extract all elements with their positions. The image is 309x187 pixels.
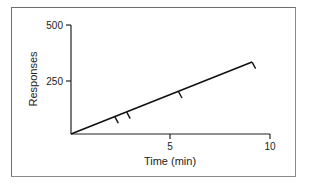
cumulative-record-chart: 500 250 5 10 Time (min) Responses bbox=[0, 0, 309, 187]
y-axis-label: Responses bbox=[27, 51, 39, 107]
response-line bbox=[71, 62, 252, 134]
y-axis bbox=[66, 25, 71, 134]
hash-mark bbox=[127, 112, 131, 119]
x-tick-5: 5 bbox=[167, 141, 173, 152]
x-axis-label: Time (min) bbox=[144, 155, 196, 167]
hash-mark bbox=[178, 91, 182, 98]
plot-area bbox=[71, 62, 256, 134]
hash-mark bbox=[115, 117, 119, 124]
x-tick-10: 10 bbox=[264, 141, 276, 152]
y-tick-250: 250 bbox=[46, 76, 63, 87]
hash-mark bbox=[252, 62, 256, 68]
y-tick-500: 500 bbox=[46, 20, 63, 31]
x-axis bbox=[71, 134, 270, 139]
